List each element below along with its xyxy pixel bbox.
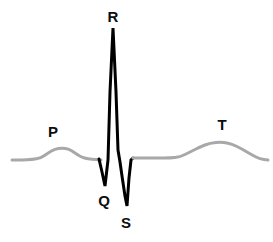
wave-label-s: S [121, 215, 131, 230]
figure-background [0, 0, 273, 242]
ecg-figure: PQRST [0, 0, 273, 242]
wave-label-q: Q [98, 193, 110, 208]
wave-label-t: T [217, 117, 226, 132]
wave-label-r: R [108, 9, 119, 24]
ecg-waveform-svg [0, 0, 273, 242]
wave-label-p: P [48, 124, 58, 139]
